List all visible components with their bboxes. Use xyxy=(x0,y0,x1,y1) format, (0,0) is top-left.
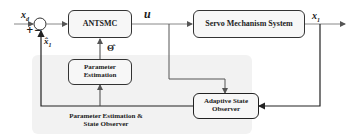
panel-caption-line2: State Observer xyxy=(46,120,166,128)
plus-sign: + xyxy=(26,25,34,35)
theta-hat-label: Θ̂ xyxy=(107,43,114,53)
adaptive-state-observer-block: Adaptive State Observer xyxy=(193,93,259,119)
panel-caption-line1: Parameter Estimation & xyxy=(46,112,166,120)
panel-caption: Parameter Estimation & State Observer xyxy=(46,112,166,128)
servo-label: Servo Mechanism System xyxy=(205,20,293,29)
control-signal-label: u xyxy=(144,7,151,22)
output-signal-label: x1 xyxy=(312,10,320,23)
estimate-signal-label: x̂1 xyxy=(44,36,52,48)
reference-signal-label: xd xyxy=(21,9,29,22)
observer-line2: Observer xyxy=(212,106,240,114)
servo-mechanism-block: Servo Mechanism System xyxy=(193,10,305,38)
parameter-estimation-block: Parameter Estimation xyxy=(68,59,132,85)
minus-sign: − xyxy=(34,25,42,35)
antsmc-block: ANTSMC xyxy=(68,10,132,38)
param-est-line2: Estimation xyxy=(84,72,117,80)
antsmc-label: ANTSMC xyxy=(83,20,118,29)
